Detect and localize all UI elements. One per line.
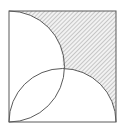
shaded-region — [9, 11, 116, 122]
geometry-diagram — [0, 0, 123, 130]
